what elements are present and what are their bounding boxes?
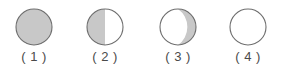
phase-option-2: ( 2 ) [73, 0, 137, 74]
phase-label-2: ( 2 ) [73, 48, 137, 66]
circle-unshaded-icon [229, 8, 267, 46]
circle-crescent-shaded-right-icon [159, 8, 197, 46]
phase-label-3: ( 3 ) [146, 48, 210, 66]
phase-label-4: ( 4 ) [216, 48, 280, 66]
phase-diagram-figure: ( 1 ) ( 2 ) ( 3 ) ( 4 ) [0, 0, 294, 74]
phase-option-3: ( 3 ) [146, 0, 210, 74]
circle-fully-shaded-icon [15, 8, 53, 46]
circle-half-shaded-left-icon [86, 8, 124, 46]
phase-label-1: ( 1 ) [2, 48, 66, 66]
phase-option-1: ( 1 ) [2, 0, 66, 74]
phase-option-4: ( 4 ) [216, 0, 280, 74]
